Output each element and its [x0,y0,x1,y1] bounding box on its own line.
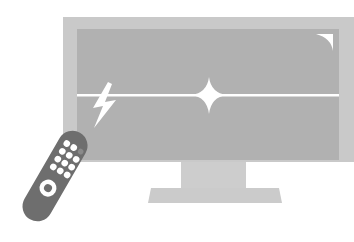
tv-icon [63,17,354,162]
tv-remote-illustration [0,0,354,242]
remote-control-icon [17,125,93,227]
tv-stand [148,160,282,203]
tv-stand-base [148,188,282,203]
remote-body [17,125,93,227]
tv-stand-neck [181,160,246,190]
